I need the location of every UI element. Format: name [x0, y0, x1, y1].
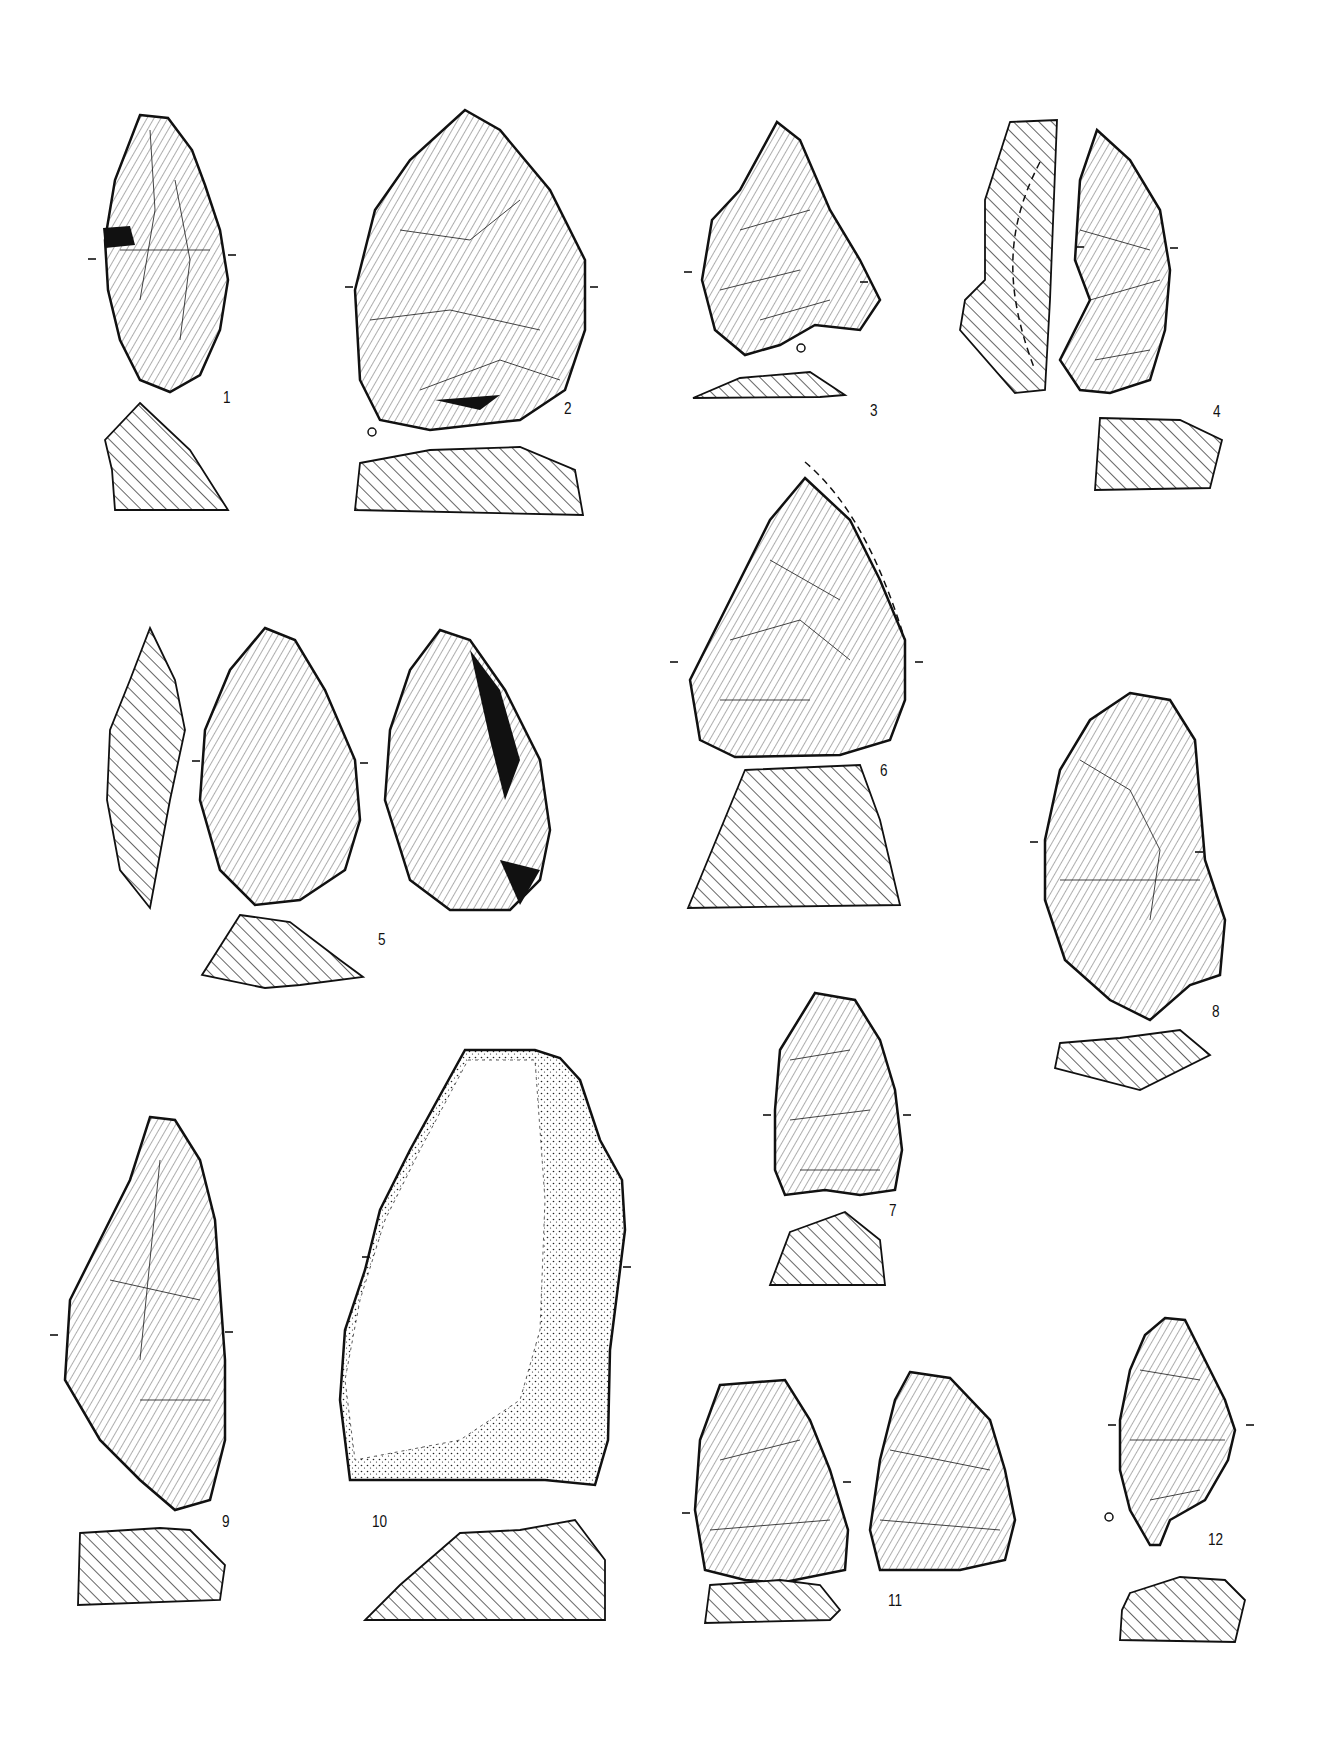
figure-label-12: 12 [1208, 1530, 1223, 1550]
figure-8 [1030, 693, 1225, 1090]
figure-label-9: 9 [222, 1512, 230, 1532]
figure-10 [340, 1050, 631, 1620]
figure-1 [88, 115, 236, 510]
figure-label-10: 10 [372, 1512, 387, 1532]
artifact-plate [0, 0, 1322, 1755]
figure-label-5: 5 [378, 930, 386, 950]
figure-label-1: 1 [223, 388, 231, 408]
figure-2 [345, 110, 598, 515]
figure-9 [50, 1117, 233, 1605]
figure-label-8: 8 [1212, 1002, 1220, 1022]
figure-5 [107, 628, 550, 988]
figure-label-4: 4 [1213, 402, 1221, 422]
figure-11 [682, 1372, 1015, 1623]
figure-7 [763, 993, 911, 1285]
figure-label-3: 3 [870, 401, 878, 421]
figure-3 [684, 122, 880, 398]
figure-label-2: 2 [564, 399, 572, 419]
figure-label-6: 6 [880, 761, 888, 781]
figure-label-7: 7 [889, 1201, 897, 1221]
figure-12 [1105, 1318, 1254, 1642]
figure-4 [960, 120, 1222, 490]
figure-6 [670, 462, 923, 908]
figure-label-11: 11 [888, 1591, 902, 1611]
